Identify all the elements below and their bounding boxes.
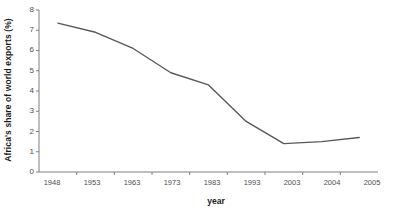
axis-lines bbox=[39, 10, 378, 172]
chart-container: Africa's share of world exports (%) 8 7 … bbox=[0, 0, 400, 219]
data-series-line bbox=[58, 23, 359, 143]
plot-area bbox=[0, 0, 400, 219]
